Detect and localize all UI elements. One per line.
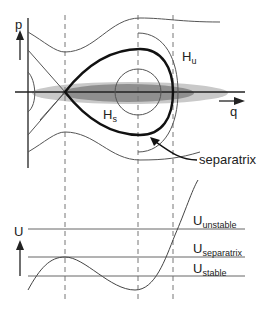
u-unstable-label: Uunstable [193,214,236,230]
hs-label: Hs [103,108,117,124]
p-arrow-icon [16,30,24,60]
inner-distribution-ellipse [62,84,194,102]
hu-label: Hu [182,50,196,66]
u-axis-label: U [14,225,23,238]
hu-label-sub: u [191,56,196,66]
u-separatrix-main: U [193,241,202,256]
u-separatrix-label: Useparatrix [193,242,242,258]
hu-label-main: H [182,49,191,64]
hs-label-sub: s [112,114,117,124]
separatrix-pointer-arrow-icon [150,137,197,160]
u-stable-sub: stable [202,268,226,278]
u-separatrix-sub: separatrix [202,248,242,258]
p-axis-label: p [15,18,22,31]
q-axis-label: q [230,105,237,118]
u-arrow-icon [16,240,24,276]
u-stable-label: Ustable [193,262,226,278]
u-unstable-sub: unstable [202,220,236,230]
u-unstable-main: U [193,213,202,228]
hs-label-main: H [103,107,112,122]
u-stable-main: U [193,261,202,276]
separatrix-label: separatrix [199,153,256,166]
